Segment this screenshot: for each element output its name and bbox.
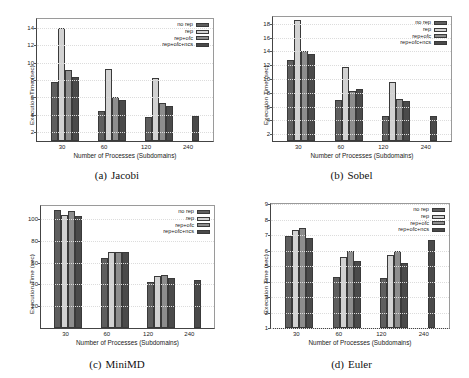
legend-swatch (196, 30, 209, 34)
x-tick-labels-sobel: 3060120240 (273, 141, 451, 150)
x-tick-label: 30 (49, 331, 83, 337)
y-tick-label: 80 (31, 238, 41, 244)
x-tick-label: 120 (366, 144, 400, 150)
gridline (273, 120, 451, 121)
legend-item[interactable]: rep+ofc (175, 223, 210, 229)
bar (347, 251, 354, 329)
gridline (37, 63, 213, 64)
bar (75, 216, 82, 328)
legend-label: no rep (415, 20, 431, 26)
bar (161, 275, 168, 328)
bar (340, 257, 347, 328)
bar (68, 211, 75, 328)
legend-label: no rep (178, 209, 194, 215)
y-tick-label: 12 (263, 62, 273, 68)
legend-swatch (434, 21, 447, 25)
legend-jacobi: no repreprep+ofcrep+ofc+ncs (162, 22, 209, 48)
legend-item[interactable]: rep+ofc+ncs (162, 42, 209, 48)
legend-item[interactable]: rep+ofc+ncs (398, 227, 445, 233)
bar (287, 60, 294, 141)
figure-grid: Execution Time (sec) no repreprep+ofcrep… (0, 0, 469, 378)
legend-label: rep+ofc+ncs (162, 42, 193, 48)
bar-group (54, 206, 82, 328)
panel-caption-sobel: (b)Sobel (234, 169, 469, 181)
chart-panel-jacobi: Execution Time (sec) no repreprep+ofcrep… (0, 0, 234, 189)
y-tick-label: 12 (27, 42, 37, 48)
legend-item[interactable]: rep (186, 216, 210, 222)
legend-item[interactable]: rep+ofc (412, 34, 447, 40)
bar (61, 215, 68, 328)
legend-item[interactable]: rep+ofc+ncs (163, 229, 210, 235)
x-axis-label: Number of Processes (Subdomains) (271, 339, 449, 346)
bar (401, 263, 408, 328)
gridline (37, 97, 213, 98)
legend-item[interactable]: no rep (177, 22, 209, 28)
bar (380, 278, 387, 328)
x-tick-labels-euler: 3060120240 (271, 328, 449, 337)
legend-swatch (434, 34, 447, 38)
x-tick-labels-minimd: 3060120240 (41, 328, 214, 337)
gridline (273, 51, 451, 52)
legend-label: rep (185, 29, 193, 35)
legend-item[interactable]: no rep (415, 20, 447, 26)
legend-item[interactable]: rep (185, 29, 209, 35)
y-tick-label: 20 (31, 303, 41, 309)
bar (389, 82, 396, 141)
bar (428, 240, 435, 328)
y-tick-label: 14 (27, 25, 37, 31)
bar (306, 238, 313, 328)
panel-caption-euler: (d)Euler (234, 358, 469, 370)
legend-item[interactable]: no rep (413, 207, 445, 213)
legend-label: rep (421, 214, 429, 220)
y-tick-label: 40 (31, 281, 41, 287)
gridline (41, 306, 214, 307)
bar (308, 54, 315, 141)
gridline (37, 80, 213, 81)
plot-area-minimd: Execution Time (sec) no repreprep+ofcrep… (0, 189, 234, 378)
legend-swatch (197, 217, 210, 221)
plot-area-euler: Execution Time (sec) no repreprep+ofcrep… (234, 189, 469, 378)
bar (194, 280, 201, 328)
legend-label: rep+ofc (410, 221, 429, 227)
x-tick-label: 60 (324, 144, 358, 150)
bar (394, 251, 401, 329)
legend-swatch (196, 23, 209, 27)
legend-swatch (196, 43, 209, 47)
caption-tag: (b) (331, 169, 344, 181)
chart-panel-minimd: Execution Time (sec) no repreprep+ofcrep… (0, 189, 234, 378)
chart-panel-sobel: Execution Time (sec) no repreprep+ofcrep… (234, 0, 469, 189)
caption-text: MiniMD (106, 358, 145, 370)
legend-label: rep+ofc+ncs (398, 227, 429, 233)
bar-group (101, 206, 129, 328)
legend-item[interactable]: rep (423, 27, 447, 33)
legend-item[interactable]: rep (421, 214, 445, 220)
legend-swatch (432, 215, 445, 219)
y-tick-label: 16 (263, 35, 273, 41)
bar (192, 116, 199, 141)
legend-swatch (434, 41, 447, 45)
bar (166, 106, 173, 141)
x-tick-label: 240 (407, 331, 441, 337)
x-tick-label: 60 (87, 144, 121, 150)
axes-jacobi: no repreprep+ofcrep+ofc+ncs 3060120240 N… (36, 18, 214, 142)
legend-item[interactable]: no rep (178, 209, 210, 215)
panel-caption-minimd: (c)MiniMD (0, 358, 234, 370)
gridline (271, 266, 449, 267)
legend-item[interactable]: rep+ofc (174, 36, 209, 42)
legend-swatch (197, 230, 210, 234)
x-axis-label: Number of Processes (Subdomains) (37, 152, 213, 159)
gridline (271, 204, 449, 205)
x-tick-label: 240 (171, 144, 205, 150)
bar (342, 67, 349, 141)
axes-minimd: no repreprep+ofcrep+ofc+ncs 3060120240 N… (40, 205, 215, 329)
legend-label: rep+ofc+ncs (163, 229, 194, 235)
legend-item[interactable]: rep+ofc+ncs (400, 40, 447, 46)
x-tick-label: 30 (45, 144, 79, 150)
legend-item[interactable]: rep+ofc (410, 221, 445, 227)
gridline (271, 235, 449, 236)
gridline (273, 79, 451, 80)
y-tick-label: 10 (263, 76, 273, 82)
bar (145, 117, 152, 141)
gridline (271, 297, 449, 298)
legend-swatch (432, 221, 445, 225)
